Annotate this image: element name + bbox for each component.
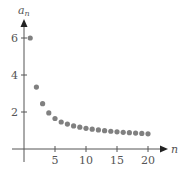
y-axis-arrow-icon <box>21 19 28 27</box>
data-point <box>145 131 150 136</box>
data-point <box>139 131 144 136</box>
data-point <box>46 110 51 115</box>
data-point <box>108 129 113 134</box>
data-point <box>52 116 57 121</box>
data-point <box>96 127 101 132</box>
y-axis-label: an <box>18 4 30 18</box>
data-point <box>65 121 70 126</box>
data-point <box>121 130 126 135</box>
y-tick-label: 4 <box>11 69 18 82</box>
data-point <box>114 129 119 134</box>
y-ticks: 246 <box>11 32 27 119</box>
data-point <box>133 130 138 135</box>
data-point <box>40 101 45 106</box>
x-tick-label: 5 <box>52 154 59 167</box>
data-point <box>83 126 88 131</box>
y-tick-label: 6 <box>11 32 18 45</box>
data-points <box>28 35 151 136</box>
data-point <box>90 127 95 132</box>
data-point <box>59 119 64 124</box>
data-point <box>77 125 82 130</box>
x-axis-arrow-icon <box>160 146 168 153</box>
y-tick-label: 2 <box>11 106 18 119</box>
data-point <box>102 128 107 133</box>
data-point <box>71 123 76 128</box>
data-point <box>34 84 39 89</box>
sequence-scatter-chart: n an 5101520 246 <box>0 0 182 175</box>
x-axis-label: n <box>171 143 178 156</box>
data-point <box>127 130 132 135</box>
x-tick-label: 20 <box>141 154 155 167</box>
axes: n an <box>12 4 178 162</box>
x-tick-label: 10 <box>79 154 93 167</box>
x-tick-label: 15 <box>110 154 124 167</box>
data-point <box>28 35 33 40</box>
